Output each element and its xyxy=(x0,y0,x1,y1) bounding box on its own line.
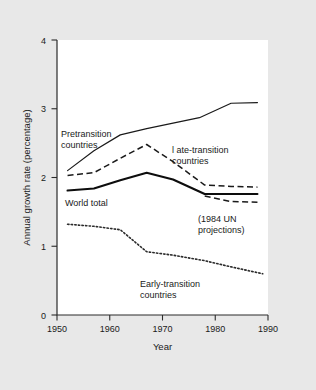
x-tick-label-1970: 1970 xyxy=(152,324,172,334)
annotation-un-projections-line1: (1984 UN xyxy=(198,214,237,224)
annotation-pretransition-line1: Pretransition xyxy=(61,129,112,139)
y-axis-title: Annual growth rate (percentage) xyxy=(21,109,32,245)
y-tick-label-2: 2 xyxy=(41,173,46,183)
x-tick-label-1960: 1960 xyxy=(100,324,120,334)
annotation-un-projections-line2: projections) xyxy=(198,225,245,235)
line-chart: 0 1 2 3 4 1950 1960 1970 1980 1990 Year … xyxy=(0,0,316,390)
y-tick-label-0: 0 xyxy=(41,311,46,321)
x-tick-label-1950: 1950 xyxy=(47,324,67,334)
x-tick-label-1990: 1990 xyxy=(258,324,278,334)
annotation-late-transition-line2: countries xyxy=(172,156,209,166)
chart-figure: 0 1 2 3 4 1950 1960 1970 1980 1990 Year … xyxy=(0,0,316,390)
y-tick-label-3: 3 xyxy=(41,104,46,114)
annotation-world-total-line1: World total xyxy=(65,198,108,208)
y-tick-label-1: 1 xyxy=(41,242,46,252)
x-tick-label-1980: 1980 xyxy=(205,324,225,334)
annotation-world-total: World total xyxy=(65,198,108,208)
annotation-late-transition-line1: l ate-transition xyxy=(172,145,229,155)
x-axis-title: Year xyxy=(153,341,172,352)
annotation-early-transition-line2: countries xyxy=(140,290,177,300)
annotation-pretransition-line2: countries xyxy=(61,140,98,150)
y-tick-label-4: 4 xyxy=(41,36,46,46)
annotation-early-transition-line1: Early-transition xyxy=(140,279,200,289)
